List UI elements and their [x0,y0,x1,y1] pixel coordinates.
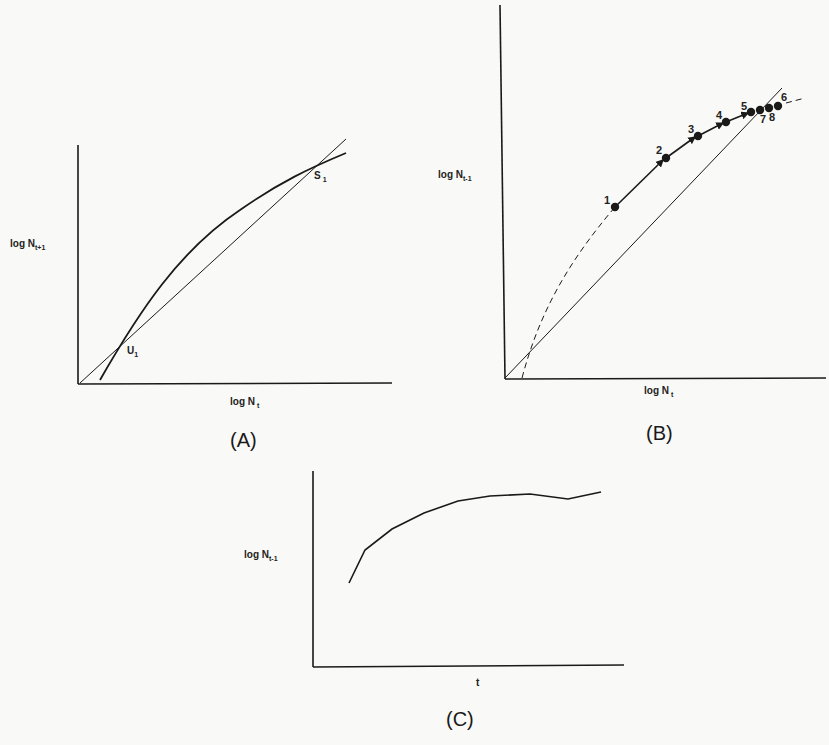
figure-canvas: log Nt+1 log Nt U1 S1 (A) 1 [0,0,829,745]
panel-c-x-label: t [476,677,480,688]
panel-a-point-s1: S1 [314,170,327,183]
panel-a-x-label: log Nt [230,396,260,409]
svg-text:5: 5 [741,100,747,112]
panel-a-caption: (A) [230,429,257,451]
panel-b-x-axis [505,378,826,379]
panel-c: log Nt-1 t (C) [244,471,624,730]
svg-text:2: 2 [656,144,662,156]
svg-text:6: 6 [781,91,787,103]
panel-a-point-u1: U1 [127,345,138,358]
point-6 [774,102,782,110]
panel-b-points [611,102,782,211]
panel-b-dashed-curve [522,207,615,378]
svg-text:3: 3 [688,123,694,135]
panel-b-dashed-tail [786,98,805,103]
panel-c-x-axis [313,665,624,667]
panel-a: log Nt+1 log Nt U1 S1 (A) [10,139,392,451]
svg-text:1: 1 [604,194,610,206]
panel-b-y-axis [500,5,505,379]
point-3 [694,132,702,140]
point-5 [747,108,755,116]
panel-b: 1 2 3 4 5 6 7 8 log Nt-1 log Nt (B) [438,5,826,444]
svg-text:7: 7 [760,113,766,125]
panel-b-caption: (B) [646,422,673,444]
point-2 [662,154,670,162]
panel-c-time-series [349,492,601,583]
panel-b-y-label: log Nt-1 [438,169,472,182]
panel-c-caption: (C) [446,708,474,730]
panel-a-reproduction-curve [100,153,346,380]
panel-a-y-label: log Nt+1 [10,238,45,251]
svg-text:8: 8 [769,111,775,123]
panel-a-x-axis [78,383,392,384]
point-1 [611,203,619,211]
panel-c-y-label: log Nt-1 [244,549,278,562]
point-4 [722,118,730,126]
svg-text:4: 4 [716,109,723,121]
panel-b-replacement-line [505,88,782,378]
panel-b-x-label: log Nt [644,385,674,398]
